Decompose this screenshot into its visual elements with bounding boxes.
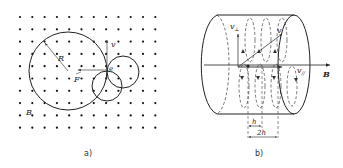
charge-label: e [109, 65, 113, 73]
v-parallel-label: v// [297, 66, 306, 76]
figure-a: R v F e B a) [19, 16, 157, 158]
caption-a: a) [84, 149, 92, 158]
cylinder-right-end [278, 15, 310, 114]
v-label: v [277, 26, 282, 35]
figure-b [201, 15, 330, 138]
caption-b: b) [255, 149, 263, 158]
helical-trajectory [239, 18, 297, 108]
field-label: B [25, 108, 32, 117]
pitch-h-label: h [252, 118, 257, 126]
force-label: F [73, 75, 80, 84]
figure-canvas: R v F e B a) [0, 0, 343, 168]
force-vector-bar [76, 72, 81, 74]
cylinder-left-end-front [201, 15, 217, 114]
field-label-b: B [322, 69, 330, 79]
v-perp-label: v⊥ [230, 22, 240, 32]
magnetic-field-dot-grid [19, 16, 157, 129]
radius-label: R [57, 54, 64, 63]
cylinder-left-end-back [217, 15, 229, 114]
pitch-2h-label: 2h [256, 129, 266, 137]
velocity-label: v [111, 40, 116, 49]
